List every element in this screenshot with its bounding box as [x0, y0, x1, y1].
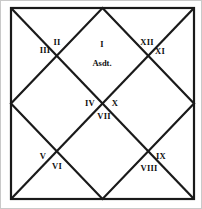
- house-label-1: I: [100, 40, 104, 49]
- chart-lines: [1, 1, 202, 209]
- house-label-12: XII: [140, 38, 153, 47]
- house-label-6: VI: [52, 162, 62, 171]
- house-label-10: X: [112, 99, 118, 108]
- house-label-3: III: [40, 46, 51, 55]
- house-label-2: II: [53, 38, 60, 47]
- house-label-4: IV: [85, 99, 95, 108]
- house-label-8: VIII: [141, 164, 158, 173]
- house-label-11: XI: [155, 47, 165, 56]
- house-label-7: VII: [97, 112, 110, 121]
- horoscope-chart: I II III IV V VI VII VIII IX X XI XII As…: [0, 0, 202, 209]
- ascendant-label: Asdt.: [92, 59, 111, 68]
- house-label-9: IX: [156, 152, 166, 161]
- house-label-5: V: [40, 152, 46, 161]
